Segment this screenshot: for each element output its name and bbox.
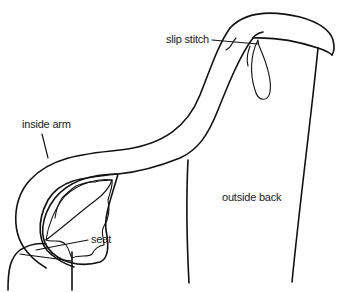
label-inside-arm: inside arm bbox=[22, 118, 71, 130]
slip-stitch-loop bbox=[247, 46, 250, 66]
back-left-edge bbox=[187, 160, 189, 283]
back-top-inner-edge bbox=[253, 38, 332, 55]
label-outside-back: outside back bbox=[222, 191, 281, 203]
arm-scroll-ring bbox=[43, 174, 118, 264]
slip-stitch-hook bbox=[226, 38, 236, 50]
inside-arm-inner-edge bbox=[40, 38, 253, 267]
seat-top-edge bbox=[20, 254, 72, 261]
label-seat: seat bbox=[91, 233, 111, 245]
label-slip-stitch: slip stitch bbox=[166, 33, 209, 45]
slip-stitch-thread bbox=[252, 40, 271, 99]
inside-arm-leader bbox=[42, 134, 48, 158]
back-right-edge bbox=[292, 48, 318, 282]
